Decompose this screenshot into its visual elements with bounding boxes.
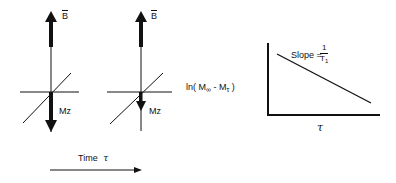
- slope-label: Slope =: [291, 51, 322, 60]
- plot-ylabel: ln( M∞ - Mτ ): [186, 83, 235, 92]
- time-arrow: [50, 167, 142, 173]
- b-field-arrow-shaft: [139, 20, 143, 47]
- ylabel-mid: - M: [211, 82, 227, 92]
- mz-arrow-shaft: [139, 92, 143, 101]
- time-label-text: Time: [78, 153, 98, 163]
- vector-diagram-relaxing: [107, 11, 172, 131]
- b-field-label-2: B: [151, 12, 157, 21]
- ylabel-sub-infinity: ∞: [206, 86, 211, 93]
- mz-arrowhead-icon: [136, 101, 146, 111]
- mz-arrowhead-icon: [45, 120, 57, 132]
- slope-numerator: 1: [320, 44, 328, 54]
- time-arrowhead-icon: [134, 167, 142, 173]
- mz-arrow-shaft: [49, 92, 53, 120]
- mz-label-1: Mz: [59, 107, 71, 116]
- slope-fraction: 1 T1: [320, 44, 328, 63]
- time-symbol: τ: [103, 153, 108, 163]
- ylabel-close: ): [229, 82, 235, 92]
- b-field-arrowhead-icon: [45, 11, 57, 22]
- ylabel-ln: ln: [186, 82, 193, 92]
- b-field-arrow-shaft: [49, 20, 53, 47]
- mz-label-2: Mz: [149, 107, 161, 116]
- ylabel-open: ( M: [193, 82, 206, 92]
- time-label: Time τ: [78, 154, 108, 163]
- y-axis-diagonal: [110, 73, 163, 124]
- ylabel-sub-tau: τ: [227, 86, 230, 93]
- plot-xlabel: τ: [317, 122, 323, 133]
- b-field-label-1: B: [62, 12, 68, 21]
- slope-denominator: T1: [320, 54, 328, 63]
- slope-denominator-sub: 1: [325, 58, 328, 64]
- b-field-arrowhead-icon: [135, 11, 147, 22]
